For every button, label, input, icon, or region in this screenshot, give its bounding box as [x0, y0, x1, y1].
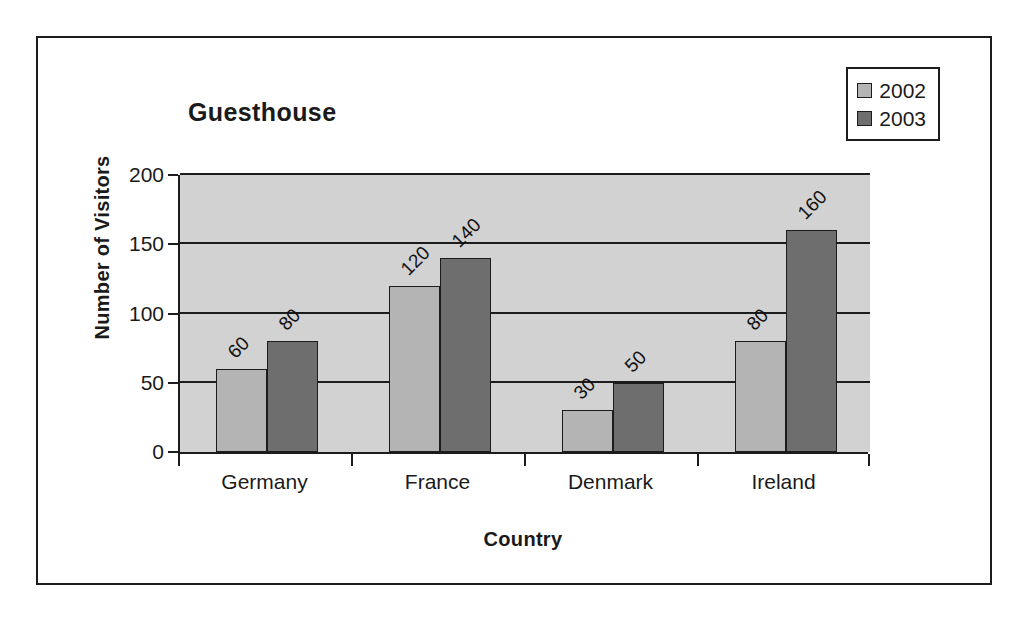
bar-france-2003[interactable] [440, 258, 491, 452]
bar-denmark-2003[interactable] [613, 383, 664, 452]
bar-value-label: 120 [396, 242, 434, 280]
x-axis-title: Country [178, 528, 868, 551]
chart-figure-frame: Guesthouse 2002 2003 Number of Visitors … [36, 36, 992, 585]
x-tick-mark [868, 454, 870, 466]
bar-value-label: 140 [447, 214, 485, 252]
y-tick-label: 200 [129, 163, 164, 187]
x-tick-label-denmark: Denmark [568, 470, 653, 494]
plot-area: 6080120140305080160 [178, 175, 870, 452]
legend-item-2003[interactable]: 2003 [857, 104, 926, 132]
x-tick-mark [178, 454, 180, 466]
gridline [180, 173, 870, 175]
y-tick-mark [168, 313, 178, 315]
y-tick-mark [168, 382, 178, 384]
bar-ireland-2002[interactable] [735, 341, 786, 452]
x-tick-mark [524, 454, 526, 466]
bar-germany-2002[interactable] [216, 369, 267, 452]
x-tick-mark [351, 454, 353, 466]
bar-value-label: 160 [793, 186, 831, 224]
y-tick-mark [168, 451, 178, 453]
bar-france-2002[interactable] [389, 286, 440, 452]
bar-value-label: 60 [223, 332, 254, 363]
legend-item-2002[interactable]: 2002 [857, 76, 926, 104]
y-tick-label: 50 [141, 371, 164, 395]
y-tick-mark [168, 174, 178, 176]
x-tick-label-ireland: Ireland [751, 470, 815, 494]
gridline [180, 242, 870, 244]
legend-swatch-2002-icon [857, 83, 872, 98]
x-tick-label-france: France [405, 470, 470, 494]
legend-label-2002: 2002 [879, 80, 926, 101]
chart-legend: 2002 2003 [846, 67, 940, 141]
bar-value-label: 50 [620, 346, 651, 377]
bar-denmark-2002[interactable] [562, 410, 613, 452]
y-tick-label: 100 [129, 302, 164, 326]
bar-value-label: 80 [742, 305, 773, 336]
x-axis-tick-labels: GermanyFranceDenmarkIreland [178, 470, 868, 504]
chart-title: Guesthouse [188, 98, 336, 127]
bar-ireland-2003[interactable] [786, 230, 837, 452]
legend-swatch-2003-icon [857, 111, 872, 126]
legend-label-2003: 2003 [879, 108, 926, 129]
y-axis-tick-labels: 050100150200 [98, 175, 164, 452]
y-tick-label: 0 [152, 440, 164, 464]
y-tick-label: 150 [129, 232, 164, 256]
y-tick-mark [168, 243, 178, 245]
x-axis-tick-marks [178, 454, 868, 466]
bar-value-label: 80 [274, 305, 305, 336]
bar-value-label: 30 [569, 374, 600, 405]
x-tick-mark [697, 454, 699, 466]
bar-germany-2003[interactable] [267, 341, 318, 452]
x-tick-label-germany: Germany [221, 470, 307, 494]
